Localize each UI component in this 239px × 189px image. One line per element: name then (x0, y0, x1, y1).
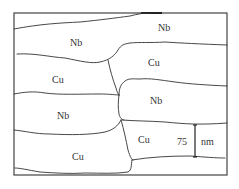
scale-bar-value: 75 (177, 137, 187, 147)
region-label-cu: Cu (72, 152, 84, 162)
scale-bar-unit: nm (201, 137, 214, 147)
region-label-cu: Cu (52, 75, 64, 85)
region-label-nb: Nb (57, 111, 69, 121)
region-label-cu: Cu (148, 58, 160, 68)
region-label-nb: Nb (158, 23, 170, 33)
region-label-cu: Cu (138, 135, 150, 145)
region-label-nb: Nb (70, 38, 82, 48)
microstructure-diagram (0, 0, 239, 189)
region-label-nb: Nb (150, 96, 162, 106)
